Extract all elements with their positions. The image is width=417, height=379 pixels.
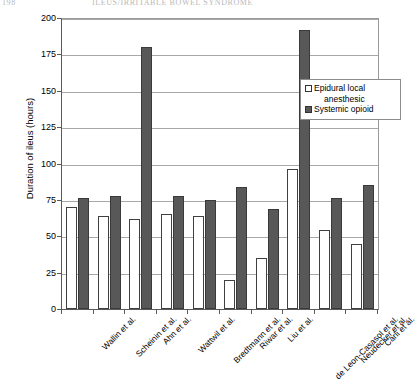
bar-epidural (98, 216, 109, 309)
bar-epidural (129, 219, 140, 309)
running-head-text: ILEUS/IRRITABLE BOWEL SYNDROME (92, 0, 253, 7)
legend-label-epidural-line2: anesthesic (314, 94, 365, 105)
page-folio: 198 (2, 0, 16, 7)
bar-opioid (110, 196, 121, 309)
bar-epidural (351, 244, 362, 309)
bar-opioid (331, 198, 342, 309)
legend-label-epidural: Epidural local anesthesic (314, 83, 365, 104)
y-tick-mark (57, 164, 61, 165)
y-tick-mark (57, 309, 61, 310)
legend-item-opioid: Systemic opioid (305, 104, 397, 115)
y-tick-label: 200 (16, 14, 56, 23)
y-tick-mark (57, 200, 61, 201)
bar-opioid (173, 196, 184, 309)
y-tick-label: 175 (16, 50, 56, 59)
bars-container (62, 18, 378, 309)
bar-opioid (268, 209, 279, 309)
y-tick-label: 100 (16, 160, 56, 169)
y-tick-mark (57, 273, 61, 274)
y-tick-label: 50 (16, 232, 56, 241)
y-tick-label: 25 (16, 269, 56, 278)
bar-group (283, 18, 315, 309)
x-tick-label: Wattwil et al. (196, 314, 237, 355)
bar-opioid (141, 47, 152, 309)
bar-opioid (236, 187, 247, 309)
bar-group (62, 18, 94, 309)
bar-group (252, 18, 284, 309)
bar-group (125, 18, 157, 309)
legend-label-opioid-line1: Systemic opioid (314, 104, 374, 114)
bar-group (94, 18, 126, 309)
y-tick-mark (57, 91, 61, 92)
x-tick-label: Wallin et al. (100, 314, 138, 352)
legend-swatch-dark-square-icon (305, 106, 312, 113)
legend-swatch-white-square-icon (305, 85, 312, 92)
bar-group (157, 18, 189, 309)
legend-item-epidural: Epidural local anesthesic (305, 83, 397, 104)
bar-epidural (66, 207, 77, 309)
bar-epidural (256, 258, 267, 309)
chart-legend: Epidural local anesthesic Systemic opioi… (300, 79, 401, 120)
x-axis-labels: Wallin et al.Scheinin et al.Ahn et al.Wa… (0, 312, 410, 379)
bar-epidural (287, 169, 298, 309)
bar-group (315, 18, 347, 309)
y-tick-mark (57, 127, 61, 128)
legend-label-epidural-line1: Epidural local (314, 83, 365, 93)
bar-group (346, 18, 378, 309)
y-tick-label: 0 (16, 305, 56, 314)
bar-epidural (161, 214, 172, 309)
y-tick-label: 150 (16, 87, 56, 96)
bar-epidural (224, 280, 235, 309)
y-tick-label: 75 (16, 196, 56, 205)
bar-group (220, 18, 252, 309)
y-tick-mark (57, 54, 61, 55)
bar-opioid (205, 200, 216, 309)
y-tick-mark (57, 18, 61, 19)
bar-opioid (299, 30, 310, 309)
y-tick-mark (57, 236, 61, 237)
bar-chart-figure: Duration of ileus (hours) Wallin et al.S… (0, 8, 410, 379)
bar-group (188, 18, 220, 309)
y-tick-label: 125 (16, 123, 56, 132)
bar-opioid (78, 198, 89, 309)
bar-epidural (193, 216, 204, 309)
bar-opioid (363, 185, 374, 309)
bar-epidural (319, 230, 330, 309)
legend-label-opioid: Systemic opioid (314, 104, 374, 115)
